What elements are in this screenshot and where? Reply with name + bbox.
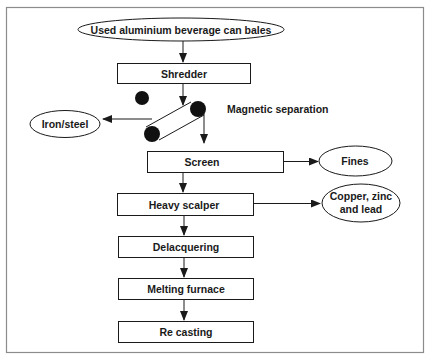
input-label: Used aluminium beverage can bales bbox=[91, 24, 272, 36]
delacquering-label: Delacquering bbox=[153, 241, 220, 253]
step-re-casting: Re casting bbox=[119, 322, 254, 343]
screen-label: Screen bbox=[184, 156, 219, 168]
step-melting-furnace: Melting furnace bbox=[119, 279, 254, 300]
input-node: Used aluminium beverage can bales bbox=[78, 18, 284, 41]
re-casting-label: Re casting bbox=[159, 326, 212, 338]
step-heavy-scalper: Heavy scalper bbox=[118, 194, 254, 216]
iron-particle-dot bbox=[135, 91, 149, 105]
melting-furnace-label: Melting furnace bbox=[147, 283, 225, 295]
fines-label: Fines bbox=[341, 155, 369, 167]
output-fines: Fines bbox=[319, 146, 392, 176]
iron-steel-label: Iron/steel bbox=[42, 118, 89, 130]
flowchart-canvas: Used aluminium beverage can bales Shredd… bbox=[0, 0, 432, 361]
heavy-scalper-label: Heavy scalper bbox=[149, 199, 220, 211]
magnetic-separation-label: Magnetic separation bbox=[227, 103, 329, 115]
copper-zinc-lead-label-line2: and lead bbox=[340, 203, 383, 215]
step-screen: Screen bbox=[148, 152, 284, 173]
step-delacquering: Delacquering bbox=[119, 237, 254, 258]
output-copper-zinc-lead: Copper, zinc and lead bbox=[322, 184, 400, 222]
step-shredder: Shredder bbox=[118, 64, 251, 84]
output-iron-steel: Iron/steel bbox=[30, 111, 100, 138]
copper-zinc-lead-label-line1: Copper, zinc bbox=[330, 190, 393, 202]
lower-roller bbox=[144, 126, 160, 142]
shredder-label: Shredder bbox=[161, 68, 207, 80]
diagram-frame bbox=[7, 8, 424, 353]
